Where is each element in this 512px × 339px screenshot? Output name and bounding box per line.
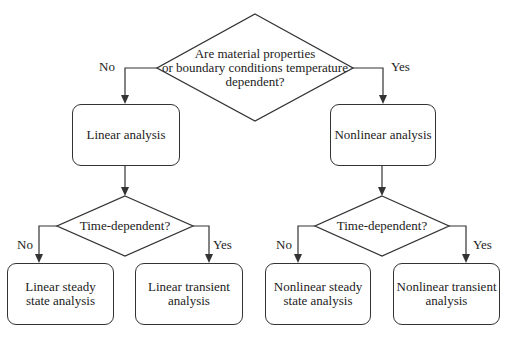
right-no-label: No xyxy=(276,238,292,251)
left-yes-connector xyxy=(193,226,209,255)
outcome-line: Nonlinear steady xyxy=(274,280,362,294)
root-decision-line-2: or boundary conditions temperature xyxy=(162,61,348,75)
root-no-label: No xyxy=(99,60,115,73)
outcome-line: state analysis xyxy=(25,294,95,308)
arrowhead-icon xyxy=(378,187,386,196)
arrowhead-icon xyxy=(121,187,129,196)
outcome-line: Nonlinear transient xyxy=(397,280,497,294)
outcome-line: analysis xyxy=(148,294,230,308)
arrowhead-icon xyxy=(205,254,213,263)
nonlinear-analysis-box: Nonlinear analysis xyxy=(330,104,436,166)
left-no-label: No xyxy=(17,238,33,251)
nonlinear-steady-state-box: Nonlinear steady state analysis xyxy=(265,263,371,325)
arrowhead-icon xyxy=(294,254,302,263)
right-yes-label: Yes xyxy=(473,238,492,251)
root-no-connector xyxy=(125,68,157,96)
arrowhead-icon xyxy=(462,254,470,263)
root-yes-label: Yes xyxy=(391,60,410,73)
linear-transient-box: Linear transient analysis xyxy=(135,263,243,325)
left-yes-label: Yes xyxy=(213,238,232,251)
left-time-decision-text: Time-dependent? xyxy=(80,219,171,233)
linear-analysis-box: Linear analysis xyxy=(72,104,180,166)
root-decision-line-1: Are material properties xyxy=(162,47,348,61)
right-no-connector xyxy=(298,226,315,255)
right-yes-connector xyxy=(449,226,466,255)
arrowhead-icon xyxy=(121,95,129,104)
linear-steady-state-box: Linear steady state analysis xyxy=(7,263,114,325)
linear-analysis-label: Linear analysis xyxy=(86,128,165,142)
nonlinear-transient-box: Nonlinear transient analysis xyxy=(393,263,500,325)
root-decision-text: Are material properties or boundary cond… xyxy=(162,47,348,89)
nonlinear-analysis-label: Nonlinear analysis xyxy=(334,128,431,142)
right-time-decision-text: Time-dependent? xyxy=(337,219,428,233)
outcome-line: Linear transient xyxy=(148,280,230,294)
outcome-line: Linear steady xyxy=(25,280,95,294)
arrowhead-icon xyxy=(35,254,43,263)
outcome-line: analysis xyxy=(397,294,497,308)
outcome-line: state analysis xyxy=(274,294,362,308)
arrowhead-icon xyxy=(379,95,387,104)
root-yes-connector xyxy=(353,68,383,96)
left-no-connector xyxy=(39,226,57,255)
root-decision-line-3: dependent? xyxy=(162,75,348,89)
